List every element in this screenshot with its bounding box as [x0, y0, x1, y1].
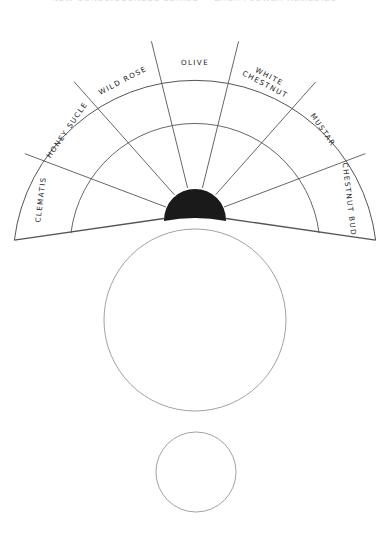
- segment-label-clematis: CLEMATIS: [33, 176, 47, 223]
- segment-label-olive: OLIVE: [181, 58, 209, 67]
- segment-label-text: MUSTAR: [309, 111, 338, 148]
- small-circle: [156, 432, 236, 512]
- segment-label-wild-rose: WILD ROSE: [97, 64, 148, 97]
- segment-label-text: CLEMATIS: [33, 176, 47, 223]
- flower-remedy-diagram: CLEMATISHONEY SUCLEWILD ROSEOLIVEWHITECH…: [0, 0, 389, 534]
- segment-label-white-chestnut: WHITECHESTNUT: [241, 61, 294, 100]
- large-circle: [104, 229, 286, 411]
- segment-label-text: HONEY SUCLE: [44, 100, 89, 160]
- segment-label-chestnut-bud: CHESTNUT BUD: [341, 162, 359, 236]
- segment-label-honey-sucle: HONEY SUCLE: [44, 100, 89, 160]
- segment-label-text: CHESTNUT BUD: [341, 162, 359, 236]
- segment-label-text: OLIVE: [181, 58, 209, 67]
- segment-label-text: WILD ROSE: [97, 64, 148, 97]
- segment-label-mustar: MUSTAR: [309, 111, 338, 148]
- remedy-fan: [14, 41, 375, 240]
- page: NEW CONSCIOUSNESS SERIES — BACH FLOWER R…: [0, 0, 389, 534]
